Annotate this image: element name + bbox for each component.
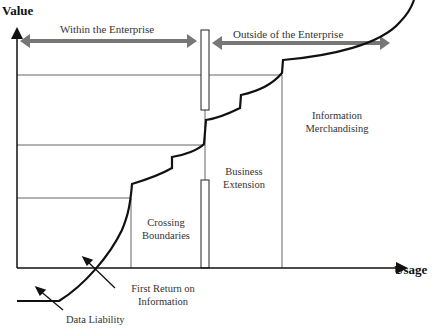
- value-usage-diagram: [0, 0, 435, 328]
- axes: [17, 30, 405, 268]
- y-axis-label: Value: [2, 3, 33, 19]
- stage-label-line: Business: [214, 165, 274, 178]
- zone-within-label: Within the Enterprise: [60, 23, 154, 36]
- zone-outside-label: Outside of the Enterprise: [233, 28, 343, 41]
- stage-label-line: Boundaries: [131, 229, 201, 242]
- stage-label-line: Merchandising: [297, 122, 377, 135]
- stage-information-merchandising: Information Merchandising: [297, 109, 377, 135]
- x-axis-label: Usage: [394, 262, 427, 278]
- annotation-line: First Return on: [118, 282, 208, 295]
- stage-crossing-boundaries: Crossing Boundaries: [131, 216, 201, 242]
- annotation-line: Information: [118, 295, 208, 308]
- stage-label-line: Crossing: [131, 216, 201, 229]
- stage-label-line: Information: [297, 109, 377, 122]
- data-liability-label: Data Liability: [66, 313, 125, 326]
- stage-label-line: Extension: [214, 178, 274, 191]
- stage-business-extension: Business Extension: [214, 165, 274, 191]
- first-return-label: First Return on Information: [118, 282, 208, 308]
